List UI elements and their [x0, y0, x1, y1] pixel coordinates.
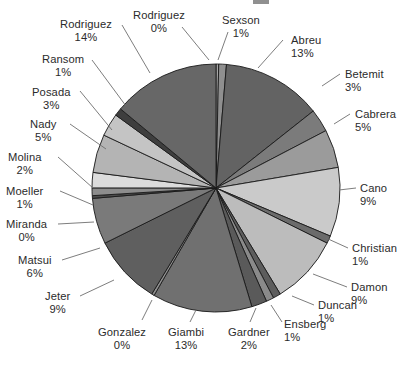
slice-label-rodriguez-0: Rodriguez0% — [133, 9, 185, 34]
leader-line-matsui — [62, 248, 100, 260]
leader-line-ransom — [92, 60, 126, 106]
slice-label-name-posada: Posada — [32, 86, 71, 99]
slice-label-nady: Nady5% — [30, 118, 57, 143]
slice-label-percent-christian: 1% — [352, 255, 397, 268]
slice-label-cano: Cano9% — [360, 182, 387, 207]
slice-label-name-christian: Christian — [352, 242, 397, 255]
slice-label-percent-gardner: 2% — [228, 339, 270, 352]
pie-chart: Rodriguez0%Sexson1%Abreu13%Betemit3%Cabr… — [0, 0, 419, 368]
leader-line-moeller — [60, 191, 93, 205]
slice-label-ensberg: Ensberg1% — [284, 318, 326, 343]
slice-label-miranda: Miranda0% — [6, 218, 47, 243]
slice-label-name-cano: Cano — [360, 182, 387, 195]
slice-label-cabrera: Cabrera5% — [355, 108, 396, 133]
leader-line-posada — [80, 91, 112, 130]
slice-label-percent-nady: 5% — [30, 131, 57, 144]
leader-line-molina — [58, 157, 93, 188]
leader-line-ensberg — [271, 305, 282, 322]
slice-label-percent-abreu: 13% — [291, 47, 321, 60]
slice-label-matsui: Matsui6% — [18, 254, 52, 279]
leader-line-rodriguez-0 — [182, 27, 209, 60]
slice-label-percent-miranda: 0% — [6, 231, 47, 244]
slice-label-percent-molina: 2% — [8, 164, 42, 177]
slice-label-percent-gonzalez: 0% — [98, 339, 146, 352]
leader-line-gonzalez — [142, 300, 152, 320]
leader-line-abreu — [258, 40, 283, 68]
slice-label-name-duncan: Duncan — [318, 299, 357, 312]
slice-label-sexson: Sexson1% — [222, 14, 260, 39]
slice-label-name-matsui: Matsui — [18, 254, 52, 267]
leader-line-nady — [70, 124, 106, 149]
leader-line-betemit — [322, 74, 340, 86]
slice-label-giambi: Giambi13% — [168, 326, 204, 351]
slice-label-name-gardner: Gardner — [228, 326, 270, 339]
slice-label-moeller: Moeller1% — [6, 185, 43, 210]
pie-slices — [92, 64, 340, 312]
slice-label-percent-moeller: 1% — [6, 198, 43, 211]
slice-label-rodriguez-14: Rodriguez14% — [60, 18, 112, 43]
slice-label-name-giambi: Giambi — [168, 326, 204, 339]
slice-label-christian: Christian1% — [352, 242, 397, 267]
slice-label-ransom: Ransom1% — [42, 53, 84, 78]
slice-label-percent-rodriguez-0: 0% — [133, 22, 185, 35]
slice-label-abreu: Abreu13% — [291, 34, 321, 59]
slice-label-percent-posada: 3% — [32, 99, 71, 112]
slice-label-percent-ransom: 1% — [42, 66, 84, 79]
leader-line-damon — [313, 274, 347, 287]
slice-label-betemit: Betemit3% — [345, 68, 384, 93]
slice-label-name-ransom: Ransom — [42, 53, 84, 66]
slice-label-name-damon: Damon — [351, 281, 388, 294]
leader-line-christian — [326, 238, 348, 248]
slice-label-gonzalez: Gonzalez0% — [98, 326, 146, 351]
slice-label-name-cabrera: Cabrera — [355, 108, 396, 121]
slice-label-jeter: Jeter9% — [45, 290, 70, 315]
leader-line-miranda — [58, 222, 94, 224]
slice-label-name-abreu: Abreu — [291, 34, 321, 47]
slice-label-name-gonzalez: Gonzalez — [98, 326, 146, 339]
slice-label-percent-giambi: 13% — [168, 339, 204, 352]
slice-label-name-rodriguez-14: Rodriguez — [60, 18, 112, 31]
slice-label-percent-cano: 9% — [360, 195, 387, 208]
slice-label-name-jeter: Jeter — [45, 290, 70, 303]
slice-label-name-nady: Nady — [30, 118, 57, 131]
leader-line-jeter — [80, 280, 114, 296]
leader-line-giambi — [190, 310, 196, 322]
slice-label-name-sexson: Sexson — [222, 14, 260, 27]
slice-label-molina: Molina2% — [8, 151, 42, 176]
slice-label-percent-cabrera: 5% — [355, 121, 396, 134]
slice-label-name-molina: Molina — [8, 151, 42, 164]
slice-label-percent-matsui: 6% — [18, 267, 52, 280]
slice-label-percent-jeter: 9% — [45, 303, 70, 316]
slice-label-name-betemit: Betemit — [345, 68, 384, 81]
slice-label-gardner: Gardner2% — [228, 326, 270, 351]
slice-label-posada: Posada3% — [32, 86, 71, 111]
slice-label-percent-betemit: 3% — [345, 81, 384, 94]
leader-line-gardner — [250, 308, 256, 322]
slice-label-percent-rodriguez-14: 14% — [60, 31, 112, 44]
leader-line-cabrera — [334, 114, 350, 124]
slice-label-name-miranda: Miranda — [6, 218, 47, 231]
slice-label-percent-ensberg: 1% — [284, 331, 326, 344]
slice-label-name-moeller: Moeller — [6, 185, 43, 198]
slice-label-name-ensberg: Ensberg — [284, 318, 326, 331]
slice-label-name-rodriguez-0: Rodriguez — [133, 9, 185, 22]
leader-line-cano — [339, 188, 356, 190]
slice-label-percent-sexson: 1% — [222, 27, 260, 40]
leader-line-duncan — [292, 296, 314, 305]
